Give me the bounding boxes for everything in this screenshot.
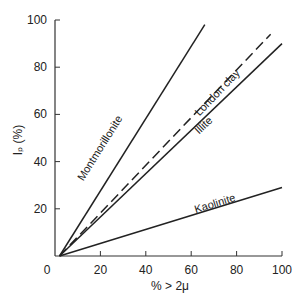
y-tick-label: 100: [27, 13, 47, 27]
series-label: Kaolinite: [193, 191, 237, 215]
y-axis-label: Iₚ (%): [11, 125, 25, 155]
series-label: London clay: [192, 66, 242, 118]
x-tick-label: 20: [94, 263, 108, 277]
axes: 20406080100020406080100: [27, 13, 292, 277]
series-line-london-clay: [60, 34, 271, 256]
series-lines: [60, 25, 282, 256]
x-tick-label: 60: [185, 263, 199, 277]
y-tick-label: 40: [34, 155, 48, 169]
series-label: Montmorillonite: [75, 113, 125, 183]
series-label: Illite: [192, 114, 214, 136]
x-axis-label: % > 2μ: [151, 279, 189, 293]
x-tick-label: 100: [272, 263, 292, 277]
y-tick-label: 60: [34, 107, 48, 121]
y-tick-label: 20: [34, 202, 48, 216]
series-line-montmorillonite: [60, 25, 205, 256]
x-tick-label: 0: [44, 263, 51, 277]
x-tick-label: 40: [139, 263, 153, 277]
y-tick-label: 80: [34, 60, 48, 74]
x-tick-label: 80: [230, 263, 244, 277]
plasticity-chart: 20406080100020406080100 MontmorilloniteL…: [0, 0, 306, 301]
